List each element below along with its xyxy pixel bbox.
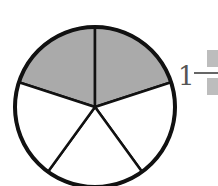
denominator-box[interactable] bbox=[207, 78, 218, 95]
numerator-box[interactable] bbox=[207, 50, 218, 67]
fraction-bar bbox=[194, 72, 218, 74]
whole-number: 1 bbox=[178, 63, 195, 89]
fraction-circle bbox=[0, 0, 218, 186]
